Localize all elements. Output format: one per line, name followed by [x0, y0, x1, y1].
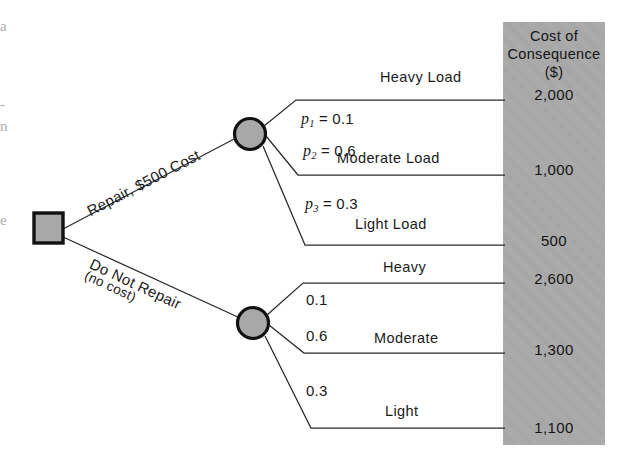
- outcome-label-heavy: Heavy: [383, 259, 426, 275]
- cost-value-light: 1,100: [503, 419, 605, 436]
- outcome-line-heavy: [267, 283, 505, 315]
- prob-symbol-p2: p: [303, 142, 311, 159]
- prob-symbol-p3: p: [305, 195, 313, 212]
- cost-value-moderate-load: 1,000: [503, 161, 605, 178]
- edge-artifact-4: e: [0, 212, 11, 229]
- prob-subscript-1: 1: [309, 118, 314, 129]
- cost-column-header-line2: Consequence: [503, 46, 605, 62]
- cost-value-heavy: 2,600: [503, 270, 605, 287]
- chance-node-circle-do-not-repair: [238, 308, 269, 339]
- outcome-label-moderate: Moderate: [374, 330, 438, 346]
- outcome-label-heavy-load: Heavy Load: [380, 69, 461, 85]
- cost-value-heavy-load: 2,000: [503, 86, 605, 103]
- probability-label-light: 0.3: [306, 382, 327, 399]
- cost-column-header-line3: ($): [503, 64, 605, 80]
- cost-column-header-line1: Cost of: [503, 28, 605, 44]
- prob-subscript-2: 2: [311, 150, 316, 161]
- decision-tree-figure: Cost of Consequence ($) 2,000 1,000 500 …: [0, 0, 633, 467]
- prob-subscript-3: 3: [313, 203, 318, 214]
- probability-label-light-load: p3 = 0.3: [305, 195, 358, 213]
- chance-node-circle-repair: [235, 119, 266, 150]
- prob-value-2: = 0.6: [321, 142, 356, 159]
- outcome-label-light-load: Light Load: [355, 216, 427, 232]
- edge-artifact-2: -: [0, 96, 11, 113]
- edge-artifact-1: a: [0, 18, 11, 35]
- prob-value-1: = 0.1: [319, 110, 354, 127]
- edge-artifact-3: n: [0, 118, 11, 135]
- probability-label-moderate: 0.6: [306, 327, 327, 344]
- cost-value-light-load: 500: [503, 232, 605, 249]
- decision-node-square: [34, 213, 63, 243]
- probability-label-moderate-load: p2 = 0.6: [303, 142, 356, 160]
- probability-label-heavy: 0.1: [306, 291, 327, 308]
- cost-value-moderate: 1,300: [503, 341, 605, 358]
- prob-symbol-p1: p: [301, 110, 309, 127]
- outcome-label-light: Light: [385, 403, 418, 419]
- probability-label-heavy-load: p1 = 0.1: [301, 110, 354, 128]
- prob-value-3: = 0.3: [323, 195, 358, 212]
